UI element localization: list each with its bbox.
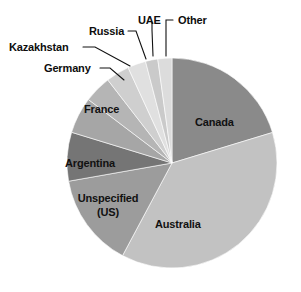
slice-label-uae: UAE [138,14,161,26]
slice-label-argentina: Argentina [65,157,115,169]
slice-label-germany: Germany [44,62,91,74]
leader-line-russia [128,31,146,59]
slice-label-unspecified-line1: Unspecified [74,192,142,204]
leader-line-other [166,20,173,56]
slice-label-unspecified-line2: (US) [74,206,142,218]
slice-label-australia: Australia [155,218,201,230]
slice-label-france: France [84,103,119,115]
pie-chart: Canada Australia Unspecified (US) Argent… [0,0,301,292]
slice-label-kazakhstan: Kazakhstan [9,41,69,53]
slice-label-canada: Canada [195,116,234,128]
leader-line-uae [152,22,153,56]
slice-label-russia: Russia [89,25,124,37]
slice-label-other: Other [178,14,207,26]
